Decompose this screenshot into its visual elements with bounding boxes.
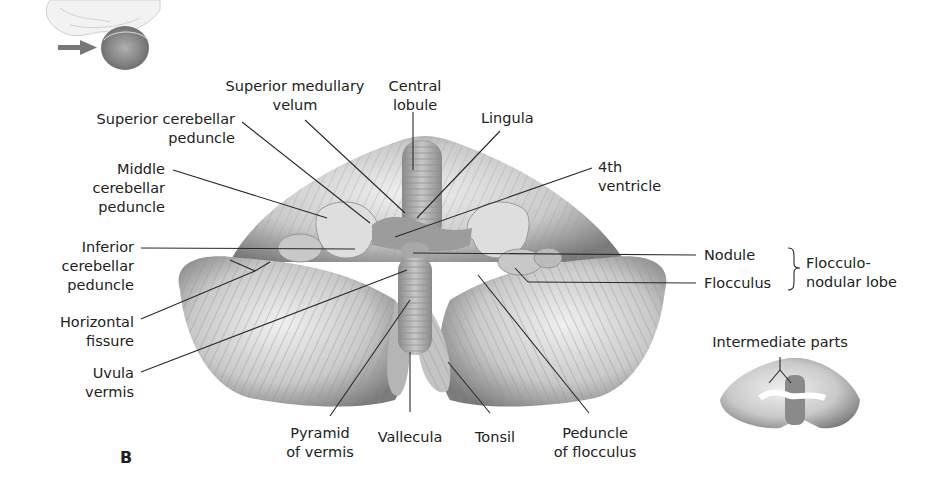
label-superior-medullary-velum: Superior medullary velum [210,77,380,115]
locator-thumbnail [46,0,160,70]
label-line: Middle [60,160,165,179]
label-peduncle-of-flocculus: Peduncle of flocculus [545,424,645,462]
cerebellum-main [179,136,667,407]
label-line: Vallecula [370,428,450,447]
label-line: Intermediate parts [700,333,860,352]
label-line: Inferior [30,238,134,257]
label-line: Flocculus [704,274,771,293]
panel-label: B [120,448,132,467]
cerebellum-illustration [0,0,928,484]
label-line: Nodule [704,246,755,265]
label-line: Tonsil [465,428,525,447]
label-line: peduncle [30,276,134,295]
label-line: Flocculo- [806,254,897,273]
label-nodule: Nodule [704,246,755,265]
label-line: Uvula [20,364,134,383]
label-line: Pyramid [280,424,360,443]
label-central-lobule: Central lobule [380,77,450,115]
label-vallecula: Vallecula [370,428,450,447]
flocculonodular-brace [788,248,800,290]
label-tonsil: Tonsil [465,428,525,447]
label-line: Superior medullary [210,77,380,96]
label-line: Peduncle [545,424,645,443]
label-superior-cerebellar-peduncle: Superior cerebellar peduncle [60,110,235,148]
label-inferior-cerebellar-peduncle: Inferior cerebellar peduncle [30,238,134,295]
label-line: vermis [20,383,134,402]
label-line: ventricle [598,177,661,196]
label-line: cerebellar [60,179,165,198]
label-line: peduncle [60,129,235,148]
label-intermediate-parts: Intermediate parts [700,333,860,352]
label-line: velum [210,96,380,115]
label-line: nodular lobe [806,273,897,292]
locator-arrow-icon [58,40,97,55]
label-middle-cerebellar-peduncle: Middle cerebellar peduncle [60,160,165,217]
label-line: of flocculus [545,443,645,462]
label-line: cerebellar [30,257,134,276]
label-uvula-vermis: Uvula vermis [20,364,134,402]
label-line: Superior cerebellar [60,110,235,129]
label-pyramid-of-vermis: Pyramid of vermis [280,424,360,462]
label-4th-ventricle: 4th ventricle [598,158,661,196]
label-line: Lingula [481,109,534,128]
label-flocculonodular-lobe: Flocculo- nodular lobe [806,254,897,292]
label-line: peduncle [60,198,165,217]
label-line: Central [380,77,450,96]
intermediate-parts-inset [720,358,860,428]
label-line: Horizontal [20,313,134,332]
label-horizontal-fissure: Horizontal fissure [20,313,134,351]
label-lingula: Lingula [481,109,534,128]
label-line: lobule [380,96,450,115]
label-flocculus: Flocculus [704,274,771,293]
label-line: of vermis [280,443,360,462]
label-line: fissure [20,332,134,351]
label-line: 4th [598,158,661,177]
